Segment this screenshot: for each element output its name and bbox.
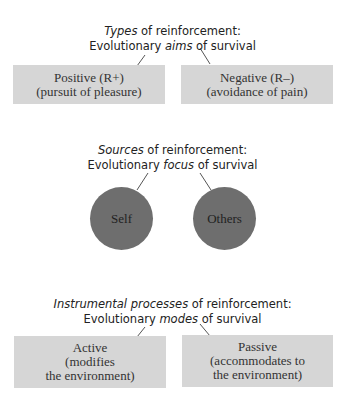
header-italic: Instrumental processes: [53, 297, 188, 311]
box-title: Active: [73, 341, 108, 355]
types-header: Types of reinforcement: Evolutionary aim…: [0, 24, 345, 54]
header-text: of survival: [198, 312, 261, 326]
header-italic: Sources: [98, 143, 144, 157]
header-text: of reinforcement:: [188, 297, 291, 311]
box-subtitle: (accommodates to: [210, 354, 305, 368]
header-text: of reinforcement:: [144, 143, 247, 157]
box-subtitle: the environment): [213, 368, 302, 382]
box-title: Positive (R+): [54, 71, 124, 85]
active-box: Active (modifies the environment): [14, 336, 166, 388]
header-text: Evolutionary: [89, 39, 165, 53]
header-text: of survival: [192, 39, 255, 53]
instrumental-header: Instrumental processes of reinforcement:…: [0, 297, 345, 327]
header-text: of survival: [194, 158, 257, 172]
box-subtitle: (avoidance of pain): [206, 85, 307, 99]
sources-header: Sources of reinforcement: Evolutionary f…: [0, 143, 345, 173]
box-subtitle: (modifies: [65, 355, 115, 369]
passive-box: Passive (accommodates to the environment…: [182, 335, 333, 387]
header-italic: Types: [104, 24, 137, 38]
others-circle: Others: [193, 187, 256, 250]
header-italic: modes: [159, 312, 198, 326]
header-italic: focus: [163, 158, 194, 172]
header-text: Evolutionary: [88, 158, 164, 172]
header-text: of reinforcement:: [137, 24, 240, 38]
circle-label: Self: [111, 211, 132, 227]
positive-box: Positive (R+) (pursuit of pleasure): [13, 65, 165, 104]
header-text: Evolutionary: [84, 312, 160, 326]
negative-box: Negative (R–) (avoidance of pain): [181, 65, 333, 104]
circle-label: Others: [207, 211, 242, 227]
box-title: Passive: [238, 340, 277, 354]
self-circle: Self: [90, 187, 153, 250]
box-subtitle: the environment): [45, 369, 134, 383]
box-subtitle: (pursuit of pleasure): [36, 85, 141, 99]
box-title: Negative (R–): [220, 71, 294, 85]
header-italic: aims: [165, 39, 192, 53]
